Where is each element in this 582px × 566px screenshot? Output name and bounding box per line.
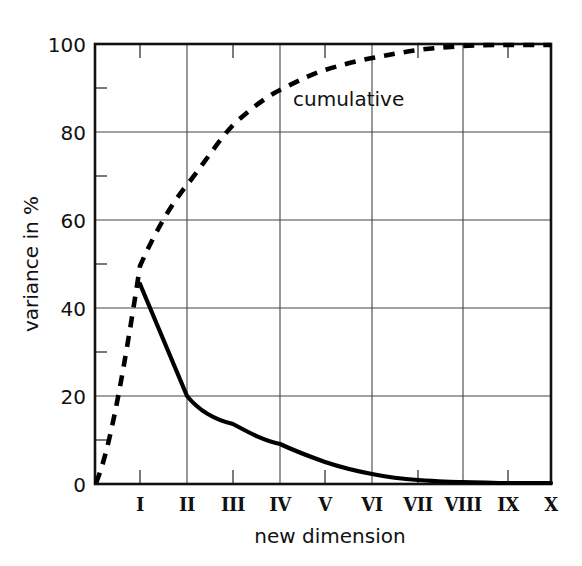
xtick-label-X: X bbox=[544, 494, 558, 515]
xtick-label-I: I bbox=[136, 494, 144, 515]
ytick-label-20: 20 bbox=[61, 385, 86, 409]
xtick-label-IX: IX bbox=[497, 494, 519, 515]
cumulative-annotation: cumulative bbox=[293, 87, 404, 111]
xtick-label-VII: VII bbox=[402, 494, 432, 515]
xtick-label-II: II bbox=[179, 494, 195, 515]
xtick-label-V: V bbox=[317, 494, 333, 515]
xtick-label-III: III bbox=[221, 494, 245, 515]
chart-figure: 100 80 60 40 20 0 I II III IV V VI VII V… bbox=[0, 0, 582, 566]
x-axis-title: new dimension bbox=[254, 524, 405, 548]
y-axis-tickmarks bbox=[95, 88, 107, 440]
ytick-label-80: 80 bbox=[61, 121, 86, 145]
y-axis-tick-labels: 100 80 60 40 20 0 bbox=[48, 33, 86, 497]
variance-curve bbox=[140, 284, 551, 483]
horizontal-gridlines bbox=[95, 132, 551, 396]
xtick-label-IV: IV bbox=[269, 494, 292, 515]
y-axis-title: variance in % bbox=[19, 196, 43, 332]
scree-plot-svg: 100 80 60 40 20 0 I II III IV V VI VII V… bbox=[0, 0, 582, 566]
ytick-label-60: 60 bbox=[61, 209, 86, 233]
ytick-label-0: 0 bbox=[73, 473, 86, 497]
xtick-label-VIII: VIII bbox=[443, 494, 481, 515]
ytick-label-40: 40 bbox=[61, 297, 86, 321]
xtick-label-VI: VI bbox=[360, 494, 382, 515]
x-axis-tick-labels: I II III IV V VI VII VIII IX X bbox=[136, 494, 558, 515]
ytick-label-100: 100 bbox=[48, 33, 86, 57]
